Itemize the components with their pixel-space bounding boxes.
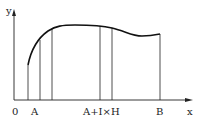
- tick-label-a: A: [31, 107, 38, 117]
- y-axis-label: y: [6, 6, 12, 16]
- x-axis-label: x: [187, 107, 193, 117]
- y-axis-arrow-icon: [12, 9, 16, 16]
- tick-label-a-plus-ixh: A+I×H: [83, 107, 120, 117]
- function-curve: [28, 25, 160, 65]
- origin-label: 0: [12, 107, 18, 117]
- x-axis-arrow-icon: [185, 98, 193, 102]
- tick-label-b: B: [156, 107, 163, 117]
